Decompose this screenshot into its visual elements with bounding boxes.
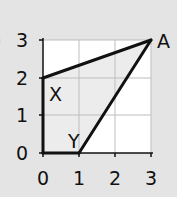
point-label-x: X (49, 83, 62, 105)
point-label-y: Y (67, 130, 80, 152)
x-tick-1: 1 (73, 167, 85, 189)
point-label-a: A (157, 30, 170, 52)
y-tick-2: 2 (16, 67, 28, 89)
y-tick-3: 3 (16, 29, 28, 51)
y-tick-1: 1 (16, 104, 28, 126)
x-tick-2: 2 (109, 167, 121, 189)
cropped-label-glyph: ) (0, 29, 1, 51)
x-tick-0: 0 (37, 167, 49, 189)
y-tick-0: 0 (16, 142, 28, 164)
x-tick-3: 3 (145, 167, 157, 189)
coordinate-diagram: 3 2 1 0 0 1 2 3 A X Y ) (0, 0, 177, 197)
